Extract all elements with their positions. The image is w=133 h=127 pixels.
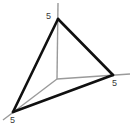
- plot-figure: 5 5 5: [0, 0, 133, 127]
- y-axis-tick-label: 5: [10, 116, 15, 125]
- x-axis-line: [57, 74, 130, 79]
- z-axis-tick-label: 5: [46, 12, 51, 21]
- plane-triangle-group: [13, 19, 113, 112]
- axes-group: [3, 3, 130, 120]
- plane-edge-z-to-x: [58, 19, 113, 75]
- z-axis-line: [57, 3, 58, 79]
- plot-canvas: [0, 0, 133, 127]
- x-axis-tick-label: 5: [112, 79, 117, 88]
